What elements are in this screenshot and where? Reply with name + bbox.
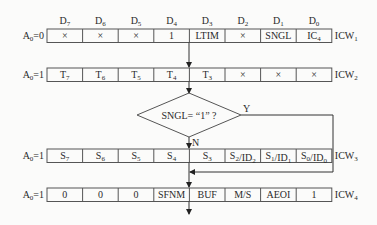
- address-label: A0=1: [23, 69, 44, 82]
- bit-cell: 0: [98, 189, 103, 200]
- yes-label: Y: [243, 103, 250, 114]
- bit-cell: AEOI: [266, 189, 290, 200]
- icw-flow-diagram: D7D6D5D4D3D2D1D0×××1LTIM×SNGLIC4A0=0ICW1…: [0, 0, 377, 225]
- bit-header-d4: D4: [166, 15, 177, 28]
- bit-cell: S6: [96, 150, 106, 163]
- bit-cell: S3: [203, 150, 213, 163]
- bit-cell: 1: [169, 30, 174, 41]
- bit-cell: 0: [62, 189, 67, 200]
- address-label: A0=1: [23, 150, 44, 163]
- register-row-icw2: T7T6T5T4T3×××A0=1ICW2: [23, 68, 359, 82]
- address-label: A0=1: [23, 189, 44, 202]
- bit-header-d5: D5: [131, 15, 142, 28]
- bit-cell: 1: [312, 189, 317, 200]
- bit-cell: ×: [98, 30, 104, 41]
- bit-cell: ×: [62, 30, 68, 41]
- icw-label: ICW1: [335, 30, 358, 43]
- icw-label: ICW2: [335, 69, 358, 82]
- bit-cell: T4: [167, 69, 177, 82]
- bit-cell: S4: [167, 150, 177, 163]
- icw-label: ICW3: [335, 150, 358, 163]
- bit-header-d1: D1: [273, 15, 284, 28]
- address-label: A0=0: [23, 30, 44, 43]
- bit-cell: ×: [133, 30, 139, 41]
- bit-header-d2: D2: [237, 15, 248, 28]
- decision-text: SNGL= “1” ?: [161, 110, 217, 121]
- register-row-icw1: ×××1LTIM×SNGLIC4A0=0ICW1: [23, 29, 359, 43]
- bit-cell: ×: [311, 69, 317, 80]
- bit-cell: T3: [202, 69, 212, 82]
- bit-cell: M/S: [234, 189, 251, 200]
- bit-cell: SNGL: [265, 30, 291, 41]
- bit-cell: SFNM: [158, 189, 185, 200]
- bit-header-d7: D7: [59, 15, 70, 28]
- bit-cell: S7: [60, 150, 70, 163]
- bit-header-d3: D3: [202, 15, 213, 28]
- bit-cell: BUF: [197, 189, 217, 200]
- bit-cell: ×: [240, 69, 246, 80]
- register-row-icw3: S7S6S5S4S3S2/ID2S1/ID1S0/ID0A0=1ICW3: [23, 149, 359, 165]
- no-label: N: [192, 137, 199, 148]
- icw-label: ICW4: [335, 189, 358, 202]
- bit-cell: IC4: [307, 30, 321, 43]
- bit-cell: S5: [131, 150, 141, 163]
- bit-cell: T7: [60, 69, 70, 82]
- bit-cell: ×: [240, 30, 246, 41]
- bit-header-d0: D0: [309, 15, 320, 28]
- bit-header-d6: D6: [95, 15, 106, 28]
- bit-cell: ×: [276, 69, 282, 80]
- bit-cell: LTIM: [195, 30, 219, 41]
- register-row-icw4: 000SFNMBUFM/SAEOI1A0=1ICW4: [23, 188, 359, 202]
- bit-cell: 0: [134, 189, 139, 200]
- bit-cell: T6: [96, 69, 106, 82]
- bit-cell: T5: [131, 69, 141, 82]
